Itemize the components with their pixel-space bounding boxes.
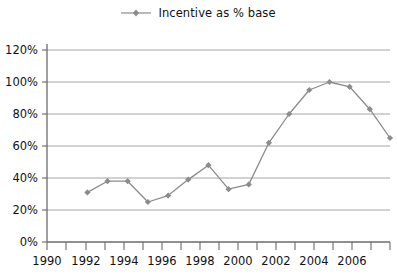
y-tick-label: 120% (5, 43, 38, 57)
data-point-marker (246, 181, 252, 187)
x-tick-label: 1996 (147, 254, 176, 268)
y-tick-label: 40% (12, 171, 38, 185)
y-tick-label: 80% (12, 107, 38, 121)
chart-container: Incentive as % base (0, 0, 397, 278)
x-axis-labels: 1990 1992 1994 1996 1998 2000 2002 2004 … (32, 254, 366, 268)
axis-lines (47, 44, 390, 242)
plot-area: 120% 100% 80% 60% 40% 20% 0% 1990 1992 1… (0, 0, 397, 278)
x-axis-ticks (47, 242, 390, 250)
data-point-marker (326, 79, 332, 85)
y-axis-ticks (42, 50, 47, 242)
x-tick-label: 2000 (223, 254, 252, 268)
x-tick-label: 1998 (185, 254, 214, 268)
x-tick-label: 1990 (32, 254, 61, 268)
data-point-marker (104, 178, 110, 184)
x-tick-label: 2004 (299, 254, 328, 268)
x-tick-label: 2002 (261, 254, 290, 268)
x-tick-label: 1992 (71, 254, 100, 268)
y-tick-label: 100% (5, 75, 38, 89)
series-line (87, 82, 390, 202)
series-incentive-as-pct-base (84, 79, 393, 205)
x-tick-label: 2006 (337, 254, 366, 268)
line-chart-svg: 120% 100% 80% 60% 40% 20% 0% 1990 1992 1… (0, 0, 397, 278)
data-point-marker (84, 189, 90, 195)
y-tick-label: 60% (12, 139, 38, 153)
x-tick-label: 1994 (109, 254, 138, 268)
y-tick-label: 20% (12, 203, 38, 217)
y-axis-labels: 120% 100% 80% 60% 40% 20% 0% (5, 43, 38, 249)
y-tick-label: 0% (20, 235, 38, 249)
